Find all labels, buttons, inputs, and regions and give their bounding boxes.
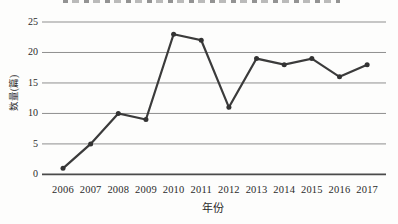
- x-tick-label: 2014: [269, 184, 299, 196]
- line-chart-figure: 数量(篇) 0510152025 20062007200820092010201…: [0, 0, 398, 224]
- data-point-marker: [254, 56, 259, 61]
- x-tick-label: 2012: [214, 184, 244, 196]
- x-tick-label: 2015: [297, 184, 327, 196]
- x-tick-label: 2010: [159, 184, 189, 196]
- data-point-marker: [199, 38, 204, 43]
- x-tick-label: 2006: [48, 184, 78, 196]
- x-tick-label: 2013: [242, 184, 272, 196]
- x-tick-label: 2017: [352, 184, 382, 196]
- x-tick-label: 2011: [186, 184, 216, 196]
- data-point-marker: [143, 117, 148, 122]
- x-axis-title: 年份: [183, 199, 243, 215]
- x-tick-label: 2016: [325, 184, 355, 196]
- x-tick-label: 2008: [103, 184, 133, 196]
- x-tick-label: 2007: [76, 184, 106, 196]
- data-point-marker: [337, 74, 342, 79]
- data-point-marker: [61, 166, 66, 171]
- data-point-marker: [88, 141, 93, 146]
- data-point-marker: [116, 111, 121, 116]
- data-point-marker: [171, 32, 176, 37]
- gridlines: [42, 22, 386, 174]
- data-point-marker: [226, 105, 231, 110]
- y-tick-label: 5: [14, 138, 38, 150]
- data-point-marker: [282, 62, 287, 67]
- y-tick-label: 10: [14, 107, 38, 119]
- x-tick-label: 2009: [131, 184, 161, 196]
- data-point-marker: [309, 56, 314, 61]
- y-tick-label: 15: [14, 77, 38, 89]
- y-tick-label: 25: [14, 16, 38, 28]
- data-point-marker: [365, 62, 370, 67]
- series-line: [63, 34, 367, 168]
- y-tick-label: 0: [14, 168, 38, 180]
- y-tick-label: 20: [14, 46, 38, 58]
